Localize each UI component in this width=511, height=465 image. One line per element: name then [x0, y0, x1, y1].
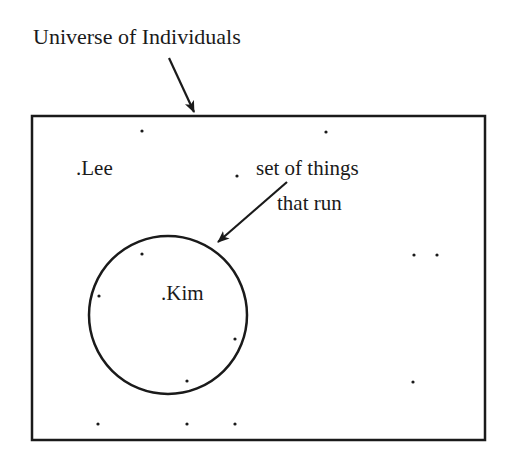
individual-dot — [97, 294, 100, 297]
individual-dot — [235, 174, 238, 177]
set-label-line2: that run — [277, 193, 342, 214]
universe-title: Universe of Individuals — [33, 26, 241, 48]
individual-label-lee: .Lee — [76, 158, 113, 179]
individual-label-kim: .Kim — [161, 283, 204, 304]
individual-dot — [324, 130, 327, 133]
individual-dot — [411, 380, 414, 383]
individual-dot — [435, 253, 438, 256]
individual-dot — [140, 252, 143, 255]
set-label-line1: set of things — [256, 158, 359, 179]
set-circle — [89, 236, 247, 394]
universe-arrow — [169, 58, 194, 112]
individual-dot — [185, 422, 188, 425]
individual-dot — [233, 337, 236, 340]
individual-dot — [140, 129, 143, 132]
individual-dot — [185, 379, 188, 382]
individual-dot — [233, 422, 236, 425]
venn-diagram — [0, 0, 511, 465]
individual-dot — [412, 253, 415, 256]
individual-dot — [96, 422, 99, 425]
